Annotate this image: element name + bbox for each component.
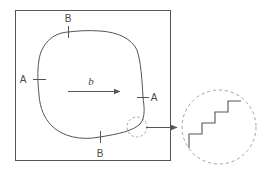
marker-a-right-label: A	[151, 92, 158, 103]
figure-container: A A B B b	[0, 0, 261, 171]
marker-a-left: A	[20, 74, 46, 85]
stepped-boundary-staircase	[189, 101, 241, 148]
magnified-detail-circle	[182, 90, 256, 164]
marker-a-right: A	[137, 92, 158, 103]
marker-b-bottom: B	[97, 131, 104, 159]
marker-b-top-label: B	[65, 13, 72, 24]
marker-b-bottom-label: B	[97, 148, 104, 159]
burgers-vector-label: b	[88, 75, 94, 87]
marker-b-top: B	[65, 13, 72, 38]
burgers-vector-arrow: b	[68, 75, 120, 92]
schematic-diagram-canvas: A A B B b	[0, 0, 261, 171]
marker-a-left-label: A	[20, 74, 27, 85]
